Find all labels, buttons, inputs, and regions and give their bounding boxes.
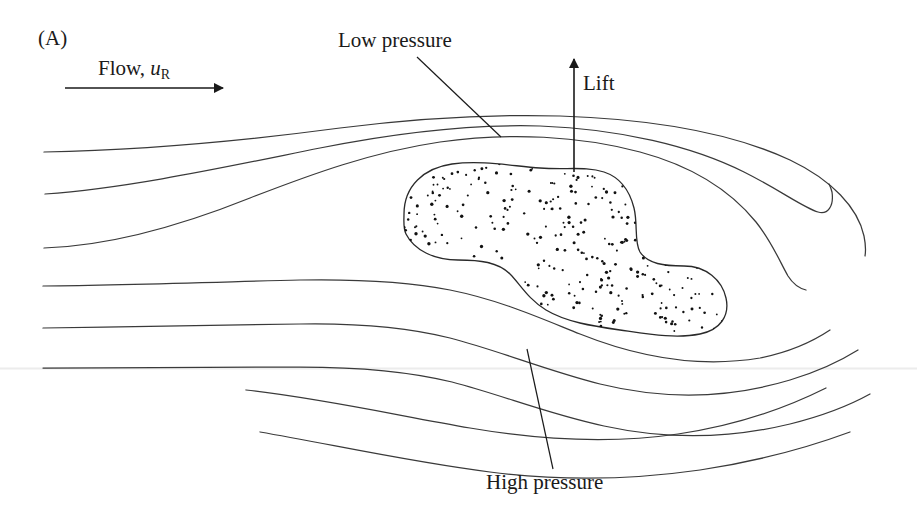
streamline-5 bbox=[43, 324, 858, 395]
low-pressure-leader bbox=[417, 57, 501, 137]
streamline-7 bbox=[246, 388, 826, 440]
lift-label: Lift bbox=[583, 73, 615, 94]
low-pressure-label: Low pressure bbox=[338, 30, 452, 51]
panel-label: (A) bbox=[38, 28, 67, 49]
body-shape-group bbox=[403, 162, 728, 336]
high-pressure-leader bbox=[527, 349, 553, 469]
flow-label-prefix: Flow, bbox=[98, 56, 150, 80]
flow-label: Flow, uR bbox=[98, 58, 170, 82]
flow-velocity-subscript: R bbox=[161, 67, 170, 82]
high-pressure-label: High pressure bbox=[486, 472, 603, 493]
flow-velocity-symbol: u bbox=[150, 56, 161, 80]
figure-panel-a: (A) Flow, uR Low pressure Lift High pres… bbox=[0, 0, 917, 523]
